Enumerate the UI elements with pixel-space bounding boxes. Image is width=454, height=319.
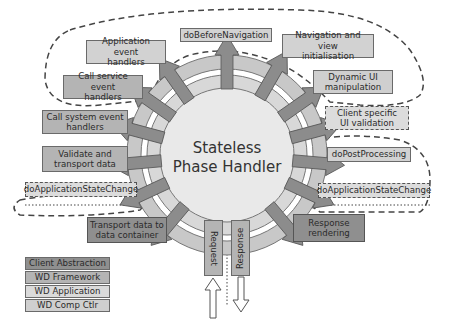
phase-handler-diagram: Stateless Phase Handler Application even… [0, 0, 454, 319]
navigation-view-initialisation-box: Navigation and viewinitialisation [282, 34, 374, 58]
response-rendering-box: Responserendering [293, 214, 365, 242]
client-specific-ui-validation-box: Client specificUI validation [325, 106, 409, 130]
call-system-event-handlers-box: Call system eventhandlers [42, 110, 128, 134]
request-box: Request [204, 220, 223, 276]
do-post-processing-box: doPostProcessing [327, 147, 411, 162]
legend-wd-framework: WD Framework [25, 271, 110, 284]
legend-wd-application: WD Application [25, 285, 110, 298]
response-box: Response [231, 220, 250, 276]
do-application-state-change-left-box: doApplicationStateChange [25, 182, 137, 197]
center-title-line2: Phase Handler [173, 158, 282, 176]
dynamic-ui-manipulation-box: Dynamic UImanipulation [313, 70, 393, 94]
application-event-handlers-box: Application eventhandlers [86, 40, 166, 64]
call-service-event-handlers-box: Call service eventhandlers [63, 75, 143, 99]
do-before-navigation-box: doBeforeNavigation [180, 28, 272, 42]
center-title-line1: Stateless [193, 139, 262, 157]
response-down-arrow-icon [233, 277, 249, 312]
validate-transport-data-box: Validate andtransport data [42, 146, 128, 172]
legend-client-abstraction: Client Abstraction [25, 257, 110, 270]
transport-data-to-container-box: Transport data todata container [87, 217, 167, 243]
request-up-arrow-icon [205, 278, 221, 318]
do-application-state-change-right-box: doApplicationStateChange [318, 183, 430, 198]
legend-wd-comp-ctlr: WD Comp Ctlr [25, 299, 110, 312]
